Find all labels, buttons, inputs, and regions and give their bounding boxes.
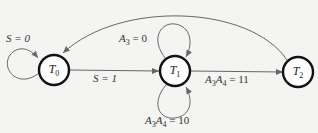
edge-label-s1: S = 1 (93, 72, 117, 84)
state-diagram: T0 T1 T2 S = 0 S = 1 A3 = 0 A3A4 = 11 A3… (0, 0, 318, 133)
node-t2-label: T2 (283, 64, 313, 80)
edge-label-a3-0: A3 = 0 (119, 32, 147, 47)
edge-t2-t0 (63, 16, 287, 60)
edge-t1-self-top (158, 24, 190, 59)
edge-label-a3a4-10: A3A4 = 10 (145, 114, 189, 129)
edge-t0-t1 (69, 70, 159, 71)
node-t1-label: T1 (160, 63, 190, 79)
edge-t1-t2 (191, 71, 283, 72)
edge-label-a3a4-11: A3A4 = 11 (205, 73, 249, 88)
edge-t0-self (7, 49, 40, 79)
node-t0-label: T0 (39, 62, 69, 78)
edge-label-s0: S = 0 (6, 32, 30, 44)
